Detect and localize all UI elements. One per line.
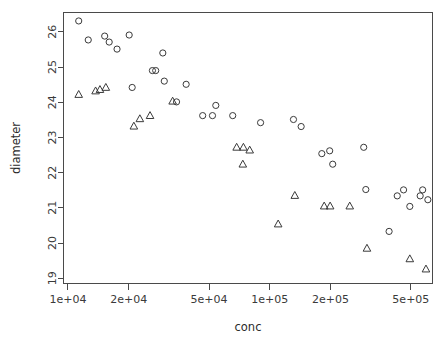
data-point-triangle bbox=[346, 202, 354, 209]
x-tick-label: 2e+04 bbox=[110, 293, 147, 306]
data-point-circle bbox=[183, 81, 189, 87]
y-tick-label: 22 bbox=[46, 166, 59, 180]
x-tick-label: 2e+05 bbox=[312, 293, 349, 306]
data-point-circle bbox=[106, 39, 112, 45]
data-point-triangle bbox=[102, 83, 110, 90]
y-axis-tick-label-group: 1920212223242526 bbox=[46, 25, 59, 285]
x-tick-label: 5e+04 bbox=[191, 293, 228, 306]
data-point-circle bbox=[257, 120, 263, 126]
data-point-triangle bbox=[406, 255, 414, 262]
data-point-triangle bbox=[146, 112, 154, 119]
data-point-triangle bbox=[75, 91, 83, 98]
data-point-triangle bbox=[363, 244, 371, 251]
data-point-circle bbox=[114, 46, 120, 52]
data-point-circle bbox=[386, 228, 392, 234]
data-point-circle bbox=[161, 78, 167, 84]
x-tick-label: 5e+05 bbox=[392, 293, 429, 306]
x-axis-title: conc bbox=[235, 320, 262, 334]
data-point-circle bbox=[407, 203, 413, 209]
data-point-circle bbox=[319, 151, 325, 157]
scatter-plot-figure: 1920212223242526 1e+042e+045e+041e+052e+… bbox=[0, 0, 446, 343]
y-tick-label: 26 bbox=[46, 25, 59, 39]
data-point-triangle bbox=[239, 160, 247, 167]
data-point-triangle bbox=[169, 97, 177, 104]
y-tick-label: 23 bbox=[46, 130, 59, 144]
data-point-circle bbox=[230, 113, 236, 119]
data-point-circle bbox=[213, 102, 219, 108]
data-point-triangle bbox=[130, 122, 138, 129]
data-point-triangle bbox=[291, 192, 299, 199]
y-tick-label: 19 bbox=[46, 271, 59, 285]
plot-drawing-surface: 1920212223242526 1e+042e+045e+041e+052e+… bbox=[0, 0, 446, 343]
data-point-circle bbox=[160, 50, 166, 56]
y-tick-label: 21 bbox=[46, 201, 59, 215]
data-point-circle bbox=[85, 37, 91, 43]
y-tick-label: 20 bbox=[46, 236, 59, 250]
y-tick-label: 24 bbox=[46, 95, 59, 109]
data-point-triangle bbox=[240, 143, 248, 150]
data-point-group bbox=[75, 18, 431, 272]
y-tick-label: 25 bbox=[46, 60, 59, 74]
data-point-circle bbox=[330, 161, 336, 167]
data-point-circle bbox=[290, 116, 296, 122]
data-point-circle bbox=[363, 186, 369, 192]
data-point-circle bbox=[298, 123, 304, 129]
data-point-circle bbox=[400, 187, 406, 193]
data-point-circle bbox=[209, 113, 215, 119]
data-point-circle bbox=[327, 148, 333, 154]
data-point-circle bbox=[417, 193, 423, 199]
data-point-circle bbox=[420, 187, 426, 193]
data-point-circle bbox=[200, 113, 206, 119]
data-point-triangle bbox=[233, 143, 241, 150]
data-point-circle bbox=[394, 193, 400, 199]
data-point-circle bbox=[76, 18, 82, 24]
data-point-circle bbox=[425, 197, 431, 203]
x-tick-label: 1e+04 bbox=[50, 293, 87, 306]
y-axis-title: diameter bbox=[9, 122, 23, 174]
x-axis-tick-group bbox=[68, 284, 411, 290]
x-tick-label: 1e+05 bbox=[251, 293, 288, 306]
x-axis-tick-label-group: 1e+042e+045e+041e+052e+055e+05 bbox=[50, 293, 430, 306]
data-point-circle bbox=[102, 33, 108, 39]
data-point-triangle bbox=[136, 115, 144, 122]
data-point-triangle bbox=[274, 220, 282, 227]
data-point-triangle bbox=[326, 202, 334, 209]
data-point-circle bbox=[126, 32, 132, 38]
data-point-triangle bbox=[422, 265, 430, 272]
data-point-circle bbox=[129, 84, 135, 90]
data-point-circle bbox=[361, 144, 367, 150]
